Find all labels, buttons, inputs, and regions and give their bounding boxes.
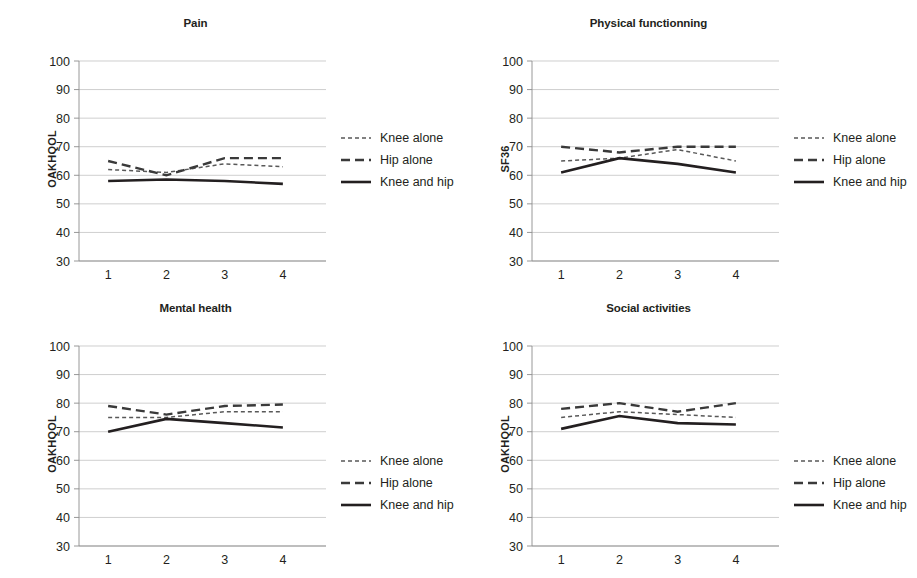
plot-area: 304050607080901001234	[465, 290, 905, 575]
legend-swatch-icon	[340, 176, 372, 188]
legend-item-hip-alone[interactable]: Hip alone	[340, 149, 454, 171]
y-tick-label: 30	[56, 255, 70, 269]
legend-swatch-icon	[793, 455, 825, 467]
y-tick-label: 80	[56, 112, 70, 126]
y-tick-label: 40	[56, 226, 70, 240]
x-tick-label: 1	[105, 268, 112, 282]
chart-panel-social-activities: Social activities OAKHQOL 30405060708090…	[465, 290, 905, 575]
series-line-hip-alone	[561, 147, 736, 153]
series-line-knee-alone	[108, 412, 283, 418]
legend-item-hip-alone[interactable]: Hip alone	[793, 149, 907, 171]
x-tick-label: 3	[674, 268, 681, 282]
legend-label: Hip alone	[833, 477, 886, 490]
legend-item-knee-and-hip[interactable]: Knee and hip	[340, 171, 454, 193]
series-line-hip-alone	[108, 158, 283, 175]
legend-item-knee-alone[interactable]: Knee alone	[340, 127, 454, 149]
legend-label: Knee and hip	[380, 499, 454, 512]
legend-swatch-icon	[340, 132, 372, 144]
y-tick-label: 100	[502, 340, 523, 354]
x-tick-label: 1	[105, 553, 112, 567]
y-tick-label: 30	[509, 540, 523, 554]
legend: Knee aloneHip aloneKnee and hip	[793, 127, 907, 193]
x-tick-label: 4	[732, 553, 739, 567]
legend-swatch-icon	[793, 499, 825, 511]
legend-item-knee-and-hip[interactable]: Knee and hip	[793, 171, 907, 193]
y-tick-label: 50	[56, 197, 70, 211]
legend-swatch-icon	[340, 154, 372, 166]
legend-item-knee-alone[interactable]: Knee alone	[793, 127, 907, 149]
y-tick-label: 70	[509, 425, 523, 439]
legend-item-knee-alone[interactable]: Knee alone	[340, 450, 454, 472]
x-tick-label: 2	[163, 553, 170, 567]
chart-panel-pain: Pain OAKHQOL 304050607080901001234 Knee …	[12, 5, 452, 290]
legend: Knee aloneHip aloneKnee and hip	[793, 450, 907, 516]
y-tick-label: 90	[509, 368, 523, 382]
legend-item-hip-alone[interactable]: Hip alone	[340, 472, 454, 494]
series-line-hip-alone	[561, 403, 736, 412]
legend-item-knee-alone[interactable]: Knee alone	[793, 450, 907, 472]
legend-swatch-icon	[340, 499, 372, 511]
series-line-knee-and-hip	[561, 416, 736, 429]
legend-swatch-icon	[793, 132, 825, 144]
x-tick-label: 4	[279, 553, 286, 567]
legend: Knee aloneHip aloneKnee and hip	[340, 127, 454, 193]
y-tick-label: 70	[509, 140, 523, 154]
y-tick-label: 100	[49, 55, 70, 69]
y-tick-label: 60	[56, 454, 70, 468]
chart-panel-mental-health: Mental health OAKHQOL 304050607080901001…	[12, 290, 452, 575]
x-tick-label: 4	[279, 268, 286, 282]
x-tick-label: 1	[558, 553, 565, 567]
y-tick-label: 50	[509, 482, 523, 496]
legend-label: Hip alone	[380, 154, 433, 167]
y-tick-label: 90	[56, 83, 70, 97]
legend-swatch-icon	[793, 154, 825, 166]
y-tick-label: 40	[56, 511, 70, 525]
x-tick-label: 3	[674, 553, 681, 567]
y-tick-label: 80	[509, 397, 523, 411]
plot-svg: 304050607080901001234	[12, 290, 452, 575]
chart-panel-physical-functionning: Physical functionning SF36 3040506070809…	[465, 5, 905, 290]
x-tick-label: 3	[221, 268, 228, 282]
plot-area: 304050607080901001234	[12, 290, 452, 575]
y-tick-label: 70	[56, 140, 70, 154]
x-tick-label: 4	[732, 268, 739, 282]
legend-swatch-icon	[793, 477, 825, 489]
y-tick-label: 80	[56, 397, 70, 411]
x-tick-label: 2	[163, 268, 170, 282]
legend-label: Knee alone	[380, 455, 443, 468]
legend-label: Knee and hip	[833, 499, 907, 512]
legend-label: Knee and hip	[380, 176, 454, 189]
series-line-knee-and-hip	[561, 158, 736, 172]
y-tick-label: 30	[509, 255, 523, 269]
series-line-knee-alone	[561, 412, 736, 418]
legend-item-hip-alone[interactable]: Hip alone	[793, 472, 907, 494]
legend-item-knee-and-hip[interactable]: Knee and hip	[793, 494, 907, 516]
x-tick-label: 3	[221, 553, 228, 567]
legend-label: Knee and hip	[833, 176, 907, 189]
y-tick-label: 50	[56, 482, 70, 496]
y-tick-label: 60	[56, 169, 70, 183]
y-tick-label: 100	[502, 55, 523, 69]
y-tick-label: 90	[509, 83, 523, 97]
y-tick-label: 70	[56, 425, 70, 439]
legend-label: Knee alone	[380, 132, 443, 145]
y-tick-label: 80	[509, 112, 523, 126]
legend-swatch-icon	[340, 455, 372, 467]
legend-item-knee-and-hip[interactable]: Knee and hip	[340, 494, 454, 516]
y-tick-label: 30	[56, 540, 70, 554]
x-tick-label: 2	[616, 268, 623, 282]
series-line-knee-alone	[561, 150, 736, 161]
chart-figure: Pain OAKHQOL 304050607080901001234 Knee …	[0, 0, 917, 578]
y-tick-label: 60	[509, 169, 523, 183]
legend-label: Knee alone	[833, 455, 896, 468]
y-tick-label: 100	[49, 340, 70, 354]
legend-label: Knee alone	[833, 132, 896, 145]
legend: Knee aloneHip aloneKnee and hip	[340, 450, 454, 516]
y-tick-label: 90	[56, 368, 70, 382]
plot-svg: 304050607080901001234	[465, 290, 905, 575]
x-tick-label: 1	[558, 268, 565, 282]
series-line-knee-alone	[108, 164, 283, 173]
series-line-knee-and-hip	[108, 180, 283, 184]
y-tick-label: 40	[509, 511, 523, 525]
x-tick-label: 2	[616, 553, 623, 567]
